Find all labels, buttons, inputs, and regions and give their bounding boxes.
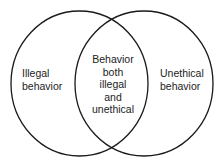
illegal-label-line-2: behavior: [22, 80, 62, 93]
intersection-label-line-4: and: [82, 91, 144, 104]
intersection-label-line-2: both: [82, 66, 144, 79]
illegal-label-line-1: Illegal: [22, 67, 62, 80]
intersection-label-line-3: illegal: [82, 78, 144, 91]
intersection-label-line-5: unethical: [82, 103, 144, 116]
unethical-behavior-label: Unethical behavior: [160, 67, 204, 92]
illegal-behavior-label: Illegal behavior: [22, 67, 62, 92]
intersection-label: Behavior both illegal and unethical: [82, 53, 144, 116]
intersection-label-line-1: Behavior: [82, 53, 144, 66]
unethical-label-line-1: Unethical: [160, 67, 204, 80]
unethical-label-line-2: behavior: [160, 80, 204, 93]
